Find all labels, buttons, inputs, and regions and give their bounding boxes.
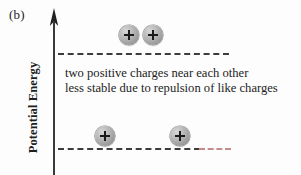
- plus-sign-icon: [95, 126, 115, 146]
- charge-upper-right: [143, 25, 163, 45]
- caption-text: two positive charges near each other les…: [65, 66, 293, 96]
- plus-sign-icon: [119, 25, 139, 45]
- charge-lower-right: [170, 126, 190, 146]
- lower-energy-level: [58, 148, 200, 150]
- plus-sign-icon: [143, 25, 163, 45]
- y-axis-label: Potential Energy: [26, 53, 41, 163]
- caption-line-1: two positive charges near each other: [65, 66, 293, 81]
- y-axis-line: [53, 22, 55, 175]
- charge-upper-left: [119, 25, 139, 45]
- panel-label: (b): [9, 7, 25, 23]
- lower-energy-level-tail: [199, 148, 231, 150]
- potential-energy-diagram: (b) Potential Energy two positive charge…: [0, 0, 301, 175]
- caption-line-2: less stable due to repulsion of like cha…: [65, 81, 293, 96]
- plus-sign-icon: [170, 126, 190, 146]
- charge-lower-left: [95, 126, 115, 146]
- upper-energy-level: [58, 53, 229, 55]
